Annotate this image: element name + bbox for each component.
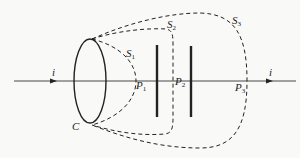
label-s3: S3	[232, 14, 242, 28]
label-p2: P2	[174, 75, 186, 89]
label-current-left: i	[52, 66, 55, 78]
label-s1: S1	[126, 47, 136, 61]
label-p3: P3	[234, 81, 246, 95]
label-current-right: i	[269, 66, 272, 78]
label-loop-c: C	[72, 120, 80, 132]
current-arrow-right-icon	[266, 79, 273, 84]
diagram: i i C S1 S2 S3 P1 P2 P3	[0, 0, 300, 158]
diagram-canvas: i i C S1 S2 S3 P1 P2 P3	[0, 0, 300, 158]
current-arrow-left-icon	[50, 79, 57, 84]
label-s2: S2	[167, 18, 177, 32]
surface-s2	[92, 29, 173, 135]
